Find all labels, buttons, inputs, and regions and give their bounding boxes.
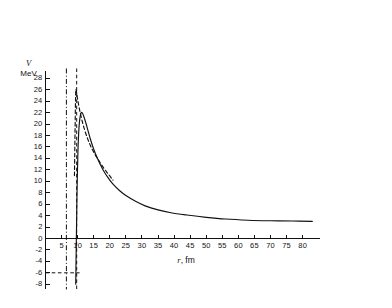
y-tick-label: 8	[38, 189, 42, 197]
x-axis-title: r, fm	[177, 255, 194, 265]
y-tick-label: 20	[34, 120, 43, 128]
y-tick-label: 18	[34, 132, 43, 140]
y-tick-label: 2	[38, 223, 42, 231]
y-tick-label: 4	[38, 212, 42, 220]
dashed-potential-curve	[74, 89, 113, 180]
y-tick-label: -4	[35, 257, 42, 265]
x-axis-unit: , fm	[181, 255, 195, 265]
reference-lines	[46, 68, 80, 289]
y-tick-label: 10	[34, 177, 43, 185]
y-tick-label: 16	[34, 143, 43, 151]
y-tick-label: 0	[38, 235, 42, 243]
y-axis-ticks	[46, 78, 50, 284]
y-axis-symbol: V	[16, 59, 42, 69]
y-tick-label: 22	[34, 109, 43, 117]
y-tick-label: -6	[35, 269, 42, 277]
y-tick-label: 12	[34, 166, 43, 174]
y-tick-label: 24	[34, 97, 43, 105]
plot-canvas	[0, 0, 392, 308]
y-tick-label: 14	[34, 154, 43, 162]
y-tick-label: 6	[38, 200, 42, 208]
x-tick-label: 80	[294, 242, 312, 250]
y-tick-label: 28	[34, 74, 43, 82]
y-tick-label: 26	[34, 86, 43, 94]
potential-energy-chart: V MeV r, fm -8-6-4-202468101214161820222…	[0, 0, 392, 308]
y-tick-label: -8	[35, 280, 42, 288]
y-tick-label: -2	[35, 246, 42, 254]
x-axis-ticks	[62, 235, 303, 239]
